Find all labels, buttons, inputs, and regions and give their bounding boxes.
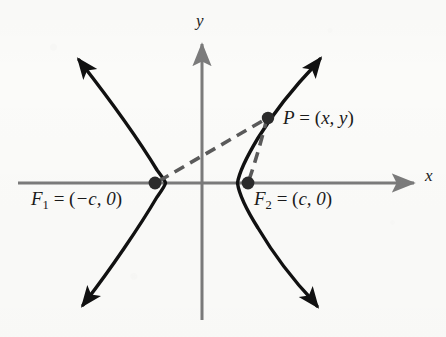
focus-2-dot [242, 177, 255, 190]
hyperbola-figure: y x P = (x, y) F1 = (−c, 0) F2 = (c, 0) [0, 0, 446, 337]
figure-canvas [0, 0, 446, 337]
x-axis-label: x [425, 167, 433, 184]
focus-1-equals: = ( [49, 188, 76, 209]
axis-group [18, 44, 414, 320]
point-p-coords: x, y [321, 107, 347, 128]
focus-2-letter: F [254, 188, 266, 209]
y-axis-label: y [196, 12, 204, 29]
left-branch-lower-arrow [83, 296, 90, 305]
right-branch-lower-arrow [310, 297, 317, 306]
point-p-label: P = (x, y) [283, 108, 354, 127]
focus-1-label: F1 = (−c, 0) [31, 189, 122, 211]
focus-2-coords: c, 0 [298, 188, 325, 209]
right-branch-upper-arrow [313, 59, 320, 68]
focus-2-equals: = ( [272, 188, 299, 209]
focus-2-close-paren: ) [326, 188, 332, 209]
segment-f1-to-p [159, 120, 264, 181]
left-branch-upper-arrow [79, 60, 86, 69]
focus-1-dot [149, 177, 162, 190]
focus-1-letter: F [31, 188, 43, 209]
focus-1-coords: −c, 0 [75, 188, 115, 209]
focus-1-close-paren: ) [116, 188, 122, 209]
point-p-close-paren: ) [348, 107, 354, 128]
point-p-dot [262, 112, 274, 124]
point-p-letter: P [283, 107, 295, 128]
focus-2-label: F2 = (c, 0) [254, 189, 332, 211]
point-p-equals: = ( [295, 107, 322, 128]
